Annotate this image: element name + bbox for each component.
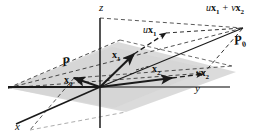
axis-label-x: x <box>15 121 20 132</box>
diagram-canvas <box>0 0 279 137</box>
sum-term2-sub: 2 <box>241 8 245 16</box>
vector-label-x0-sub: 0 <box>69 80 73 88</box>
vector-label-x1-sub: 1 <box>117 55 121 63</box>
sum-term1-sub: 1 <box>216 8 220 16</box>
vector-label-sum: ux1+vx2 <box>206 3 244 16</box>
vector-label-vx2-sub: 2 <box>205 73 209 81</box>
vector-label-x2: x2 <box>152 64 161 77</box>
vector-label-ux1-sub: 1 <box>153 30 157 38</box>
vector-diagram-figure: z y x x0 x1 x2 ux1 vx2 ux1+vx2 P P0 <box>0 0 279 137</box>
sum-operator: + <box>220 2 232 13</box>
vector-label-vx2: vx2 <box>196 68 209 81</box>
vector-label-x0: x0 <box>64 75 73 88</box>
vector-label-x1: x1 <box>112 50 121 63</box>
vector-label-ux1: ux1 <box>143 25 157 38</box>
axis-label-y: y <box>195 83 200 94</box>
vector-label-x2-sub: 2 <box>157 69 161 77</box>
axis-label-z: z <box>99 2 103 13</box>
